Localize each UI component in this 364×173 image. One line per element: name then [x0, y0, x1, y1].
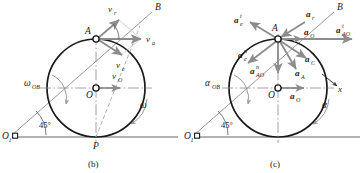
label-O-b: O	[86, 90, 93, 100]
label-O-c: O	[268, 90, 275, 100]
joint-O1-b	[13, 133, 18, 138]
svg-text:a: a	[238, 50, 243, 60]
svg-text:O: O	[296, 97, 301, 103]
vector-a-e-n-c	[248, 40, 278, 63]
svg-text:r: r	[312, 15, 315, 21]
joint-A-c	[275, 36, 281, 42]
svg-text:r: r	[114, 10, 117, 16]
label-O1-c: O 1	[184, 131, 193, 143]
label-a-AO-t-c: a AO t	[336, 23, 351, 37]
label-A-b: A	[84, 26, 91, 36]
svg-text:a: a	[336, 25, 341, 35]
svg-text:A: A	[300, 74, 305, 80]
joint-A-b	[93, 36, 99, 42]
svg-text:n: n	[244, 48, 247, 54]
svg-text:a: a	[304, 27, 309, 37]
svg-text:OB: OB	[212, 84, 220, 90]
svg-text:a: a	[234, 15, 239, 25]
svg-text:t: t	[240, 13, 242, 19]
joint-O-b	[93, 85, 99, 91]
svg-text:1: 1	[190, 137, 193, 143]
label-omega-ob-b: ω OB	[24, 78, 40, 90]
svg-text:v: v	[146, 34, 150, 44]
panel-b: B A v r v a v e v O O P O 1 45° ω OB	[2, 2, 178, 169]
label-a-r-c: a r	[306, 9, 315, 21]
label-v-e-b: v e	[116, 60, 125, 72]
svg-text:v: v	[112, 71, 116, 81]
parallelogram-side2-b	[122, 39, 141, 54]
vector-a-A-c	[279, 40, 296, 69]
label-v-r-b: v r	[108, 4, 117, 16]
label-O1-b: O 1	[2, 131, 11, 143]
svg-text:v: v	[108, 4, 112, 14]
svg-text:AO: AO	[255, 72, 265, 78]
panel-c: B A a e t a r a O a AO t a e n a AO n	[184, 2, 360, 169]
vector-a-C-c	[279, 40, 306, 58]
label-angle-45-b: 45°	[39, 120, 51, 130]
label-P-b: P	[92, 141, 99, 151]
svg-text:1: 1	[8, 137, 11, 143]
svg-text:v: v	[116, 60, 120, 70]
axis-x-c	[322, 74, 337, 86]
joint-O1-c	[195, 133, 200, 138]
svg-text:O: O	[118, 77, 123, 83]
svg-text:a: a	[306, 9, 311, 19]
svg-text:AO: AO	[341, 31, 351, 37]
svg-text:α: α	[205, 78, 211, 88]
figure-root: B A v r v a v e v O O P O 1 45° ω OB	[0, 0, 364, 173]
label-A-c: A	[271, 23, 278, 33]
parallelogram-side-b	[118, 19, 141, 39]
vector-a-r-c	[281, 22, 305, 37]
vector-v-r-b	[97, 20, 119, 39]
svg-text:e: e	[240, 21, 243, 27]
svg-text:OB: OB	[32, 84, 40, 90]
svg-text:n: n	[256, 64, 259, 70]
svg-text:a: a	[250, 66, 255, 76]
label-B-c: B	[337, 2, 343, 12]
label-B-b: B	[155, 2, 161, 12]
svg-text:e: e	[244, 56, 247, 62]
svg-text:a: a	[305, 54, 310, 64]
label-a-e-t-c: a e t	[234, 13, 243, 27]
label-angle-45-c: 45°	[221, 120, 233, 130]
svg-text:t: t	[342, 23, 344, 29]
label-a-O-mid-c: a O	[290, 91, 301, 103]
label-v-a-b: v a	[146, 34, 155, 46]
label-a-A-c: a A	[295, 68, 305, 80]
angle-arc-A-b	[113, 24, 119, 39]
svg-text:O: O	[310, 33, 315, 39]
joint-O-c	[275, 85, 281, 91]
svg-text:C: C	[311, 60, 316, 66]
caption-c: (c)	[270, 159, 280, 169]
label-alpha-ob-c: α OB	[205, 78, 220, 90]
svg-text:a: a	[290, 91, 295, 101]
label-a-AO-n-c: a AO n	[250, 64, 265, 78]
label-v-O-b: v O	[112, 71, 123, 83]
caption-b: (b)	[88, 159, 99, 169]
label-axis-x-c: x	[337, 84, 342, 94]
svg-text:a: a	[295, 68, 300, 78]
label-omega-wheel-b: ω	[140, 100, 147, 110]
svg-text:e: e	[122, 66, 125, 72]
svg-text:a: a	[152, 40, 155, 46]
svg-text:ω: ω	[24, 78, 31, 88]
